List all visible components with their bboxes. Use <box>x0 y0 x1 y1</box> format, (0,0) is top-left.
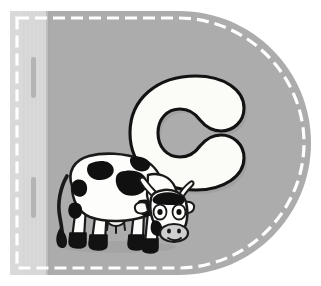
cow-pupil-left <box>157 209 162 215</box>
cow-hoof-back-near <box>89 235 107 250</box>
spine-tick-lower <box>31 177 36 218</box>
cow-nostril-left <box>167 228 171 233</box>
cow-hoof-front-near <box>142 239 158 253</box>
flashcard-illustration <box>0 0 321 286</box>
flashcard-canvas: Lowercase letter c flashcard with a spot… <box>0 0 321 286</box>
cow-ear-left <box>135 202 148 213</box>
cow-nostril-right <box>177 228 181 233</box>
cow-pupil-right <box>176 209 181 215</box>
cow-hoof-back-far <box>69 233 86 248</box>
spine-tick-upper <box>31 57 36 98</box>
spine-edge-shade <box>46 11 50 275</box>
cow-spot-5 <box>68 202 82 218</box>
cow-muzzle <box>160 224 188 242</box>
